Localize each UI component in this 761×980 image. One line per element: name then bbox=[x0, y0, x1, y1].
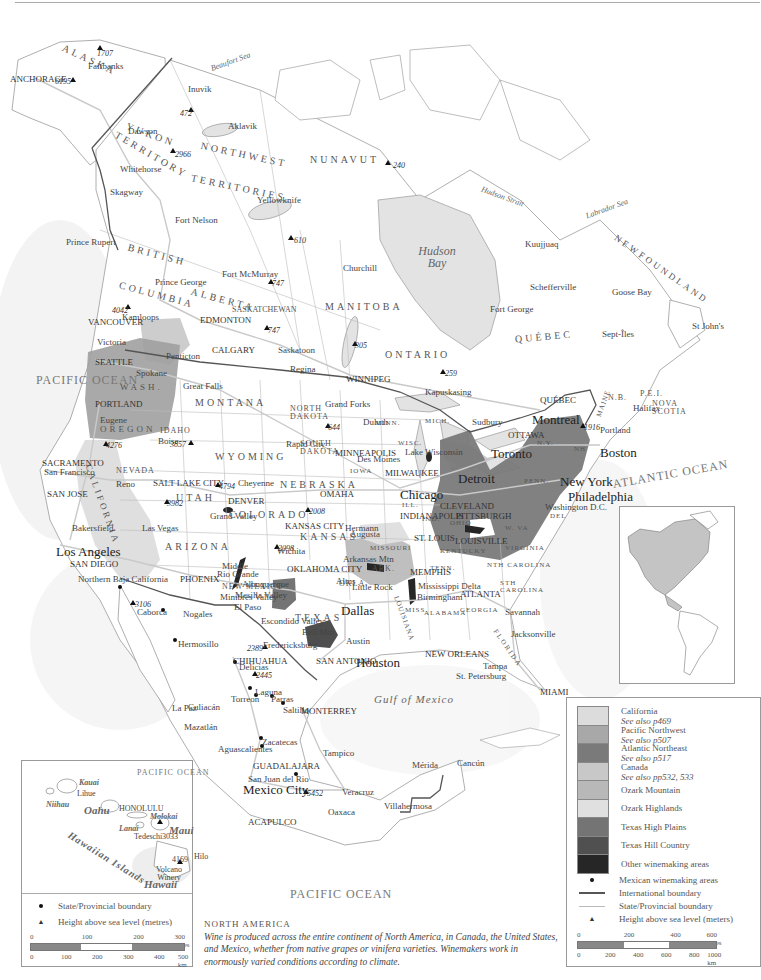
city-label: Hermosillo bbox=[178, 640, 219, 649]
peak-elevation-label: 240 bbox=[393, 162, 405, 170]
scale-tick-label: 0 bbox=[577, 951, 581, 959]
city-label: Regina bbox=[290, 365, 316, 374]
label-iowa: IOWA bbox=[350, 468, 372, 475]
city-label: INDIANAPOLIS bbox=[400, 512, 464, 521]
legend-swatch bbox=[577, 743, 609, 763]
hawaii-ocean-label: PACIFIC OCEAN bbox=[137, 769, 210, 778]
city-label: Schefferville bbox=[530, 283, 576, 292]
label-montana: MONTANA bbox=[195, 398, 266, 408]
city-label: WINNIPEG bbox=[346, 375, 391, 384]
city-label: NEW ORLEANS bbox=[425, 650, 489, 659]
legend-state-label: State/Provincial boundary bbox=[619, 901, 713, 911]
peak-elevation-label: 4042 bbox=[112, 307, 128, 315]
peak-elevation-label: 2966 bbox=[175, 151, 191, 159]
city-label: VANCOUVER bbox=[88, 318, 143, 327]
scale-tick-label: 300 bbox=[123, 953, 134, 961]
city-label: Lake Wisconsin bbox=[405, 448, 463, 457]
city-label: Mazatlán bbox=[184, 723, 217, 732]
legend-international-label: International boundary bbox=[619, 888, 701, 898]
americas-locator-map bbox=[620, 507, 734, 683]
city-label: Veracruz bbox=[342, 788, 374, 797]
city-label: Bell Mtn bbox=[302, 628, 334, 637]
peak-elevation-label: 472 bbox=[180, 110, 192, 118]
scale-tick-label: 600 bbox=[661, 951, 672, 959]
label-pacific-ocean-south: PACIFIC OCEAN bbox=[290, 888, 392, 901]
peak-elevation-label: 2389 bbox=[247, 645, 263, 653]
label-nunavut: NUNAVUT bbox=[310, 155, 379, 165]
city-label: Prince Rupert bbox=[66, 238, 116, 247]
city-label: Cancún bbox=[457, 759, 485, 768]
city-label: Middle bbox=[222, 562, 248, 571]
city-label: Jacksonville bbox=[511, 630, 556, 639]
city-label: Halifax bbox=[633, 404, 660, 413]
triangle-icon: ▲ bbox=[32, 918, 50, 926]
legend-swatch bbox=[577, 799, 609, 819]
legend-item-ozark-mountain: Ozark Mountain bbox=[577, 780, 680, 800]
city-label: SAN DIEGO bbox=[70, 560, 118, 569]
peak-elevation-label: 4794 bbox=[219, 483, 235, 491]
caption-description: Wine is produced across the entire conti… bbox=[204, 931, 564, 968]
state-line-icon bbox=[577, 906, 607, 907]
legend-label: Ozark Mountain bbox=[621, 785, 680, 795]
island-label: Oahu bbox=[84, 805, 110, 816]
place-label: 4169 bbox=[172, 856, 188, 864]
city-label: Victoria bbox=[97, 338, 126, 347]
international-line-icon bbox=[577, 892, 607, 894]
city-label: Villahermosa bbox=[384, 802, 432, 811]
city-label: Churchill bbox=[343, 264, 377, 273]
legend-height: ▲ Height above sea level (meters) bbox=[577, 914, 733, 924]
city-label: OMAHA bbox=[320, 490, 354, 499]
hawaii-legend-height: ▲ Height above sea level (metres) bbox=[32, 917, 172, 927]
peak-elevation-label: 5452 bbox=[307, 790, 323, 798]
city-label: Portland bbox=[600, 426, 631, 435]
city-label: Bakersfield bbox=[72, 524, 113, 533]
label-pei: P.E.I. bbox=[640, 390, 663, 398]
legend-swatch bbox=[577, 836, 609, 856]
city-label: Albuquerque bbox=[242, 580, 289, 589]
city-label: Nogales bbox=[183, 610, 213, 619]
legend-mexican-label: Mexican winemaking areas bbox=[619, 875, 718, 885]
city-label: Mimbres Valley bbox=[220, 593, 278, 602]
legend-item-texas-high-plains: Texas High Plains bbox=[577, 817, 686, 837]
city-label: Reno bbox=[116, 480, 135, 489]
city-label: Yellowknife bbox=[257, 196, 301, 205]
city-label: Prince George bbox=[155, 278, 207, 287]
map-legend: CaliforniaSee also p469Pacific Northwest… bbox=[566, 697, 761, 967]
scale-tick-label: 400 bbox=[633, 951, 644, 959]
city-label: Goose Bay bbox=[612, 288, 652, 297]
label-nb: N.B. bbox=[608, 394, 627, 402]
city-label: Little Rock bbox=[352, 583, 393, 592]
dot-icon bbox=[32, 904, 50, 908]
city-label: Penticton bbox=[166, 352, 200, 361]
legend-label: Texas High Plains bbox=[621, 822, 686, 832]
label-ohio: OHIO bbox=[450, 520, 472, 527]
city-label: ST. LOUIS bbox=[414, 534, 455, 543]
city-label: Parras bbox=[271, 695, 294, 704]
hawaii-legend-state-label: State/Provincial boundary bbox=[58, 901, 152, 911]
city-label: Toronto bbox=[491, 447, 532, 460]
city-label: Grand Forks bbox=[325, 400, 370, 409]
peak-elevation-label: 610 bbox=[294, 237, 306, 245]
label-oregon: OREGON bbox=[100, 425, 156, 434]
city-label: Inuvik bbox=[188, 85, 212, 94]
hawaii-scale-graphic bbox=[30, 943, 185, 951]
city-label: QUÉBEC bbox=[540, 396, 576, 405]
city-label: Saskatoon bbox=[278, 346, 315, 355]
scale-tick-label: 200 bbox=[605, 951, 616, 959]
legend-swatch bbox=[577, 780, 609, 800]
legend-swatch bbox=[577, 817, 609, 837]
scale-tick-label: 500 km bbox=[178, 953, 189, 969]
city-label: Fairbanks bbox=[88, 62, 124, 71]
city-label: Cheyenne bbox=[238, 479, 274, 488]
city-label: Great Falls bbox=[183, 382, 223, 391]
city-label: OKLAHOMA CITY bbox=[287, 565, 362, 574]
city-label: SAN JOSE bbox=[47, 490, 88, 499]
city-label: Houston bbox=[356, 656, 400, 669]
legend-label: Other winemaking areas bbox=[621, 859, 709, 869]
city-label: Augusta bbox=[350, 530, 380, 539]
peak-elevation-label: 305 bbox=[355, 342, 367, 350]
label-georgia: GEORGIA bbox=[460, 607, 499, 614]
label-ark: ARK. bbox=[372, 565, 395, 573]
hawaii-scale-miles: 0100200300 miles bbox=[30, 933, 185, 943]
label-wyoming: WYOMING bbox=[215, 452, 287, 462]
